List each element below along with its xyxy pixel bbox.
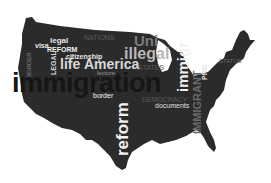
word-reform-large: reform — [114, 102, 131, 156]
word-immigration: immigration — [12, 70, 161, 97]
word-statue: STATUE — [219, 58, 242, 64]
word-border: border — [93, 92, 113, 99]
word-immigr-vertical: immigr — [175, 42, 190, 92]
word-pro-vertical: PRO — [201, 65, 208, 80]
word-nations: NATIONS — [84, 34, 115, 41]
word-documents: documents — [155, 102, 189, 109]
word-legal: legal — [50, 37, 68, 45]
